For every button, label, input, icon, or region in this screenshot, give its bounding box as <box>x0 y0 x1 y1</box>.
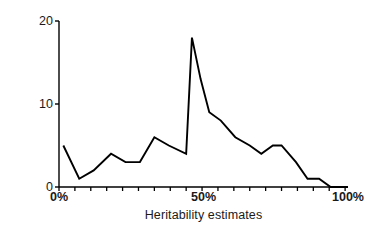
x-axis-tick-label: 50% <box>191 190 216 204</box>
y-axis-title: No. of studies <box>0 0 22 232</box>
y-axis-tick-label-text: 10 <box>39 97 53 111</box>
y-axis-tick-label-text: 20 <box>39 14 53 28</box>
chart-figure: No. of studies Heritability estimates 01… <box>0 0 374 232</box>
x-axis-title: Heritability estimates <box>59 208 348 222</box>
x-axis-tick-label: 100% <box>332 190 364 204</box>
x-axis-tick-label: 0% <box>50 190 68 204</box>
data-series-line <box>63 38 348 187</box>
